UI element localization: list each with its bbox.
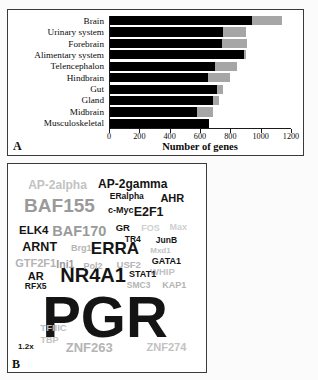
- bar-segment-black: [110, 27, 223, 36]
- category-label: Brain: [8, 16, 106, 26]
- bar-segment-black: [110, 119, 209, 128]
- x-axis-tick-label: 200: [133, 132, 145, 141]
- bar-segment-gray: [223, 27, 247, 36]
- word-cloud-term: ARNT: [22, 241, 57, 254]
- category-label: Gut: [8, 84, 106, 94]
- word-cloud-term: JunB: [156, 236, 177, 245]
- x-axis-title: Number of genes: [109, 141, 291, 152]
- bar-segment-gray: [244, 50, 246, 59]
- panel-a-letter: A: [13, 139, 22, 154]
- word-cloud-term: BAF155: [24, 195, 95, 214]
- bar-row: [110, 16, 291, 25]
- bar-segment-gray: [222, 39, 247, 48]
- word-cloud-term: GR: [116, 224, 130, 234]
- category-label: Alimentary system: [8, 50, 106, 60]
- bar-segment-black: [110, 73, 208, 82]
- word-cloud-term: PGR: [42, 288, 168, 346]
- bar-segment-gray: [213, 96, 219, 105]
- bar-row: [110, 50, 291, 59]
- x-axis-tick-label: 600: [194, 132, 206, 141]
- word-cloud-term: GATA1: [152, 256, 181, 265]
- word-cloud-term: AP-2alpha: [28, 179, 87, 191]
- word-cloud-term: STAT1: [129, 270, 156, 279]
- bar-segment-black: [110, 107, 197, 116]
- bar-segment-black: [110, 39, 222, 48]
- x-axis-tick-label: 1200: [283, 132, 299, 141]
- word-cloud-term: ELK4: [19, 225, 48, 237]
- x-axis-tick-label: 0: [107, 132, 111, 141]
- word-cloud-term: TFIIIC: [40, 324, 66, 334]
- word-cloud-term: AP-2gamma: [98, 178, 167, 190]
- figure-container: BrainUrinary systemForebrainAlimentary s…: [0, 0, 318, 380]
- bar-row: [110, 39, 291, 48]
- category-label: Gland: [8, 95, 106, 105]
- word-cloud-term: Max: [170, 223, 188, 232]
- word-cloud: PGRNR4A1BAF155ERRABAF170ZNF263AP-2alphaA…: [8, 164, 206, 372]
- category-axis-labels: BrainUrinary systemForebrainAlimentary s…: [8, 16, 106, 128]
- bar-row: [110, 27, 291, 36]
- word-cloud-term: FOS: [141, 224, 160, 233]
- x-axis-tick-label: 400: [164, 132, 176, 141]
- word-cloud-term: TBP: [41, 335, 59, 344]
- bar-segment-gray: [252, 16, 282, 25]
- category-label: Forebrain: [8, 39, 106, 49]
- panel-b-letter: B: [12, 357, 21, 372]
- x-axis-tick-label: 1000: [252, 132, 268, 141]
- word-cloud-term: KAP1: [162, 280, 186, 289]
- category-label: Hindbrain: [8, 73, 106, 83]
- bar-segment-black: [110, 85, 217, 94]
- category-label: Telencephalon: [8, 61, 106, 71]
- word-cloud-term: Pol2: [84, 261, 103, 270]
- word-cloud-term: Ini1: [56, 259, 74, 270]
- bar-segment-black: [110, 16, 252, 25]
- bar-segment-gray: [197, 107, 213, 116]
- word-cloud-term: ZNF274: [147, 342, 187, 353]
- category-label: Urinary system: [8, 27, 106, 37]
- word-cloud-term: SMC3: [127, 280, 151, 289]
- bar-group: [110, 16, 291, 128]
- bar-row: [110, 119, 291, 128]
- bar-segment-black: [110, 96, 213, 105]
- bar-segment-gray: [217, 85, 223, 94]
- panel-b-word-cloud: PGRNR4A1BAF155ERRABAF170ZNF263AP-2alphaA…: [7, 163, 207, 373]
- bar-segment-gray: [215, 62, 238, 71]
- bar-row: [110, 73, 291, 82]
- bar-row: [110, 85, 291, 94]
- plot-area: [109, 16, 291, 128]
- word-cloud-term: GTF2F1: [15, 257, 56, 268]
- word-cloud-term: Mxd1: [150, 247, 170, 255]
- category-label: Midbrain: [8, 107, 106, 117]
- bar-segment-black: [110, 62, 215, 71]
- bar-chart: BrainUrinary systemForebrainAlimentary s…: [8, 10, 303, 155]
- bar-row: [110, 107, 291, 116]
- bar-segment-black: [110, 50, 244, 59]
- bar-row: [110, 96, 291, 105]
- word-cloud-term: TR4: [125, 235, 141, 244]
- panel-a-bar-chart: BrainUrinary systemForebrainAlimentary s…: [7, 9, 304, 156]
- word-cloud-term: E2F1: [134, 206, 164, 219]
- category-label: Musculoskeletal: [8, 118, 106, 128]
- word-cloud-term: BAF170: [52, 223, 106, 238]
- word-cloud-term: ERalpha: [110, 192, 144, 201]
- word-cloud-term: ZNF263: [66, 341, 113, 354]
- bar-segment-gray: [208, 73, 230, 82]
- x-axis-tick-label: 800: [224, 132, 236, 141]
- word-cloud-term: RFX5: [25, 281, 47, 290]
- bar-row: [110, 62, 291, 71]
- word-cloud-term: AHR: [160, 193, 184, 204]
- word-cloud-term: Brg1: [71, 244, 92, 253]
- word-cloud-term: c-Myc: [108, 205, 134, 214]
- word-cloud-scale-note: 1.2x: [18, 343, 34, 351]
